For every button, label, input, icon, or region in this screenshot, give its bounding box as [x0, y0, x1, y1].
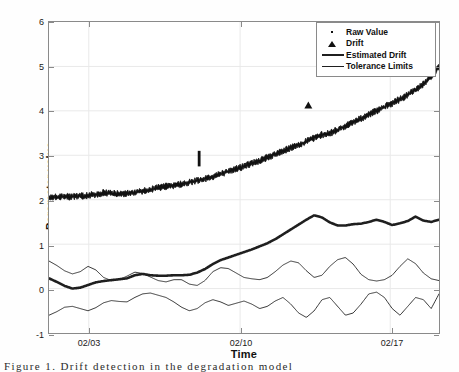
x-axis-tick-mark	[392, 328, 393, 333]
y-axis-tick-label: 2	[39, 196, 49, 206]
legend-label-raw-value: Raw Value	[346, 27, 388, 38]
x-axis-label: Time	[48, 348, 440, 360]
legend-item-raw-value: Raw Value	[320, 27, 431, 38]
y-axis-tick-mark	[434, 201, 439, 202]
x-axis-tick-mark	[241, 328, 242, 333]
thin-line-icon	[320, 61, 346, 72]
tolerance-limit-line	[49, 292, 439, 317]
y-axis-tick-label: 5	[39, 62, 49, 72]
figure-container: Parameter value -1012345602/0302/1002/17…	[0, 0, 459, 372]
figure-caption: Figure 1. Drift detection in the degrada…	[4, 360, 455, 372]
y-axis-tick-label: 4	[39, 106, 49, 116]
x-axis-tick-mark	[89, 328, 90, 333]
y-axis-tick-mark	[49, 67, 54, 68]
y-axis-tick-mark	[434, 246, 439, 247]
dot-marker-icon	[320, 27, 346, 38]
raw-value-band	[49, 64, 439, 200]
y-axis-tick-mark	[434, 111, 439, 112]
y-axis-tick-label: 0	[39, 285, 49, 295]
legend-label-drift: Drift	[346, 38, 363, 49]
raw-value-spike	[198, 151, 201, 167]
x-axis-tick-mark	[241, 22, 242, 27]
y-axis-tick-mark	[49, 22, 54, 23]
x-axis-tick-mark	[89, 22, 90, 27]
legend-item-drift: Drift	[320, 38, 431, 49]
y-axis-tick-mark	[49, 290, 54, 291]
drift-marker	[304, 102, 312, 109]
y-axis-tick-label: 3	[39, 151, 49, 161]
legend: Raw Value Drift Estimated Drift Toleranc…	[316, 22, 436, 77]
triangle-marker-icon	[320, 38, 346, 49]
legend-label-estimated-drift: Estimated Drift	[346, 50, 406, 61]
y-axis-tick-label: 6	[39, 17, 49, 27]
thick-line-icon	[320, 50, 346, 61]
x-axis-tick-label: 02/03	[78, 338, 101, 348]
legend-label-tolerance-limits: Tolerance Limits	[346, 61, 413, 72]
x-axis-tick-label: 02/17	[381, 338, 404, 348]
y-axis-tick-mark	[49, 335, 54, 336]
y-axis-tick-mark	[49, 201, 54, 202]
y-axis-tick-mark	[49, 156, 54, 157]
y-axis-tick-label: -1	[36, 330, 49, 340]
y-axis-tick-mark	[434, 156, 439, 157]
y-axis-tick-mark	[49, 111, 54, 112]
y-axis-tick-mark	[434, 335, 439, 336]
x-axis-tick-label: 02/10	[230, 338, 253, 348]
y-axis-tick-label: 1	[39, 241, 49, 251]
y-axis-tick-mark	[434, 290, 439, 291]
y-axis-tick-mark	[49, 246, 54, 247]
legend-item-estimated-drift: Estimated Drift	[320, 50, 431, 61]
legend-item-tolerance-limits: Tolerance Limits	[320, 61, 431, 72]
